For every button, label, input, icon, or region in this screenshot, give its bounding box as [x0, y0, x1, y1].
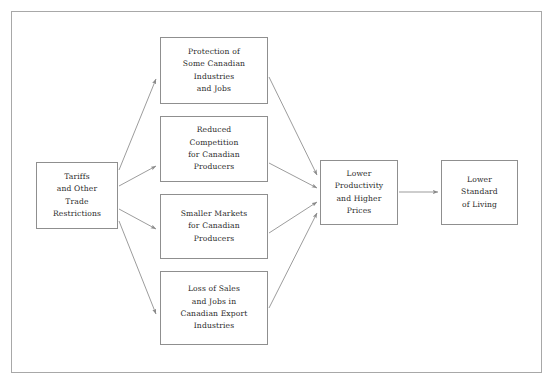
node-reduced-competition[interactable]: Reduced Competition for Canadian Produce…	[160, 116, 268, 182]
node-loss-of-sales[interactable]: Loss of Sales and Jobs in Canadian Expor…	[160, 271, 268, 345]
node-tariffs-label: Tariffs and Other Trade Restrictions	[50, 171, 104, 220]
diagram-page: Tariffs and Other Trade Restrictions Pro…	[0, 0, 553, 387]
node-lower-productivity-label: Lower Productivity and Higher Prices	[332, 168, 387, 217]
node-smaller-markets[interactable]: Smaller Markets for Canadian Producers	[160, 194, 268, 259]
node-protection-label: Protection of Some Canadian Industries a…	[180, 46, 248, 95]
node-loss-of-sales-label: Loss of Sales and Jobs in Canadian Expor…	[177, 283, 250, 332]
node-protection[interactable]: Protection of Some Canadian Industries a…	[160, 37, 268, 104]
node-lower-standard-of-living[interactable]: Lower Standard of Living	[441, 160, 518, 225]
node-lower-productivity[interactable]: Lower Productivity and Higher Prices	[320, 160, 398, 225]
node-tariffs[interactable]: Tariffs and Other Trade Restrictions	[36, 162, 118, 229]
clipped-header-text	[0, 0, 553, 9]
node-reduced-competition-label: Reduced Competition for Canadian Produce…	[185, 124, 243, 173]
node-lower-standard-of-living-label: Lower Standard of Living	[458, 174, 501, 211]
node-smaller-markets-label: Smaller Markets for Canadian Producers	[178, 208, 251, 245]
